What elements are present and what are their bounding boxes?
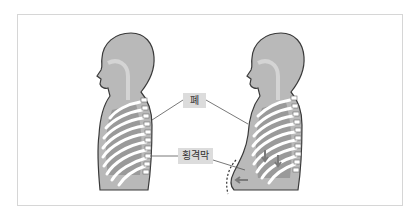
lung-label: 폐 bbox=[183, 93, 206, 108]
left-body-figure bbox=[97, 33, 154, 190]
right-body-figure bbox=[227, 33, 304, 194]
breathing-illustration bbox=[0, 0, 418, 216]
diaphragm-label: 횡격막 bbox=[178, 148, 213, 164]
